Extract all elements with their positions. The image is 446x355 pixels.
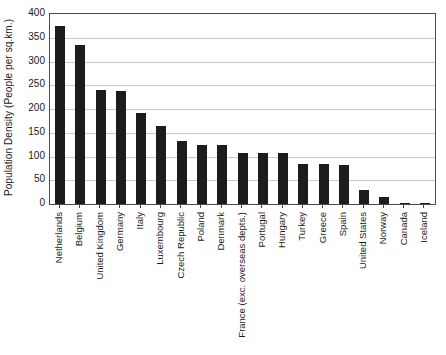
- bar: [75, 45, 85, 204]
- bar-slot: [131, 14, 151, 204]
- y-axis-tick-label: 50: [34, 174, 45, 184]
- y-axis-tick-label: 100: [28, 151, 45, 161]
- bar-slot: [415, 14, 435, 204]
- x-axis-label-slot: Belgium: [69, 208, 89, 355]
- bar-slot: [111, 14, 131, 204]
- bar-slot: [313, 14, 333, 204]
- x-axis-label-slot: United Kingdom: [90, 208, 110, 355]
- x-axis-category-label: Norway: [378, 212, 388, 244]
- bar-slot: [50, 14, 70, 204]
- bar: [319, 164, 329, 204]
- x-axis-label-slot: Spain: [333, 208, 353, 355]
- x-axis-label-slot: Czech Republic: [171, 208, 191, 355]
- bar-slot: [192, 14, 212, 204]
- bar: [156, 126, 166, 204]
- y-axis-title-text: Population Density (People per sq.km.): [4, 19, 15, 196]
- bar-slot: [395, 14, 415, 204]
- x-axis-label-slot: Portugal: [252, 208, 272, 355]
- y-axis-tick-label: 0: [39, 198, 45, 208]
- x-axis-category-label: Spain: [338, 212, 348, 236]
- x-axis-label-slot: Germany: [110, 208, 130, 355]
- bar-slot: [172, 14, 192, 204]
- x-axis-label-slot: Denmark: [211, 208, 231, 355]
- x-axis-category-label: Hungary: [277, 212, 287, 248]
- x-axis-category-label: Germany: [115, 212, 125, 251]
- y-axis-tick-label: 150: [28, 127, 45, 137]
- bar: [217, 145, 227, 204]
- x-axis-label-slot: Turkey: [292, 208, 312, 355]
- bar: [339, 165, 349, 204]
- x-axis-category-label: Denmark: [216, 212, 226, 251]
- x-axis-category-label: Belgium: [74, 212, 84, 246]
- bar: [298, 164, 308, 204]
- x-axis-category-labels: NetherlandsBelgiumUnited KingdomGermanyI…: [49, 208, 434, 355]
- bar-slot: [253, 14, 273, 204]
- x-axis-category-label: Luxembourg: [155, 212, 165, 265]
- y-axis-tick-label: 350: [28, 32, 45, 42]
- x-axis-label-slot: Canada: [394, 208, 414, 355]
- bar-slot: [232, 14, 252, 204]
- bar-slot: [334, 14, 354, 204]
- bar: [197, 145, 207, 204]
- bar-series: [50, 14, 435, 204]
- x-axis-label-slot: Poland: [191, 208, 211, 355]
- bar-slot: [151, 14, 171, 204]
- x-axis-category-label: United States: [358, 212, 368, 269]
- x-axis-category-label: Poland: [196, 212, 206, 242]
- y-axis-tick-label: 250: [28, 79, 45, 89]
- bar: [136, 113, 146, 204]
- x-axis-label-slot: France (exc. overseas depts.): [231, 208, 251, 355]
- x-axis-category-label: Greece: [318, 212, 328, 243]
- y-axis-tick-label: 200: [28, 103, 45, 113]
- bar-slot: [70, 14, 90, 204]
- x-axis-label-slot: Italy: [130, 208, 150, 355]
- x-axis-category-label: Canada: [399, 212, 409, 245]
- x-axis-label-slot: Netherlands: [49, 208, 69, 355]
- x-axis-label-slot: Luxembourg: [150, 208, 170, 355]
- bar-chart: Population Density (People per sq.km.) 0…: [0, 0, 446, 355]
- x-axis-label-slot: United States: [353, 208, 373, 355]
- y-axis-tick-label: 300: [28, 56, 45, 66]
- x-axis-category-label: Czech Republic: [176, 212, 186, 279]
- x-axis-category-label: Iceland: [419, 212, 429, 243]
- y-axis-tick-label: 400: [28, 8, 45, 18]
- bar: [116, 91, 126, 204]
- plot-area: [49, 13, 436, 205]
- x-axis-category-label: Netherlands: [54, 212, 64, 263]
- bar: [258, 153, 268, 204]
- bar-slot: [293, 14, 313, 204]
- bar: [359, 190, 369, 204]
- x-axis-category-label: Portugal: [257, 212, 267, 247]
- x-axis-label-slot: Norway: [373, 208, 393, 355]
- bar-slot: [91, 14, 111, 204]
- bar: [96, 90, 106, 204]
- x-axis-category-label: France (exc. overseas depts.): [237, 212, 247, 338]
- y-axis-title: Population Density (People per sq.km.): [0, 0, 18, 215]
- bar: [55, 26, 65, 204]
- bar: [238, 153, 248, 204]
- x-axis-category-label: Turkey: [297, 212, 307, 241]
- bar-slot: [374, 14, 394, 204]
- x-axis-label-slot: Greece: [312, 208, 332, 355]
- bar-slot: [273, 14, 293, 204]
- bar: [379, 197, 389, 204]
- bar: [177, 141, 187, 204]
- x-axis-label-slot: Hungary: [272, 208, 292, 355]
- y-axis-tick-labels: 050100150200250300350400: [18, 0, 48, 215]
- bar-slot: [354, 14, 374, 204]
- x-axis-label-slot: Iceland: [414, 208, 434, 355]
- bar: [278, 153, 288, 204]
- x-axis-category-label: United Kingdom: [95, 212, 105, 280]
- bar-slot: [212, 14, 232, 204]
- x-axis-category-label: Italy: [135, 212, 145, 229]
